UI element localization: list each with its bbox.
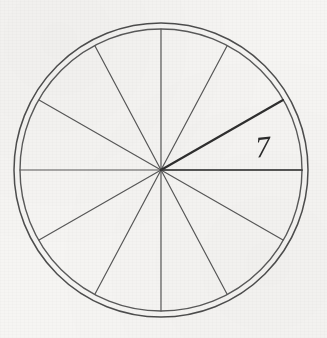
figure-canvas: 7 (0, 0, 327, 338)
sector-label-7: 7 (254, 129, 274, 164)
sector-wheel-diagram: 7 (0, 0, 327, 338)
